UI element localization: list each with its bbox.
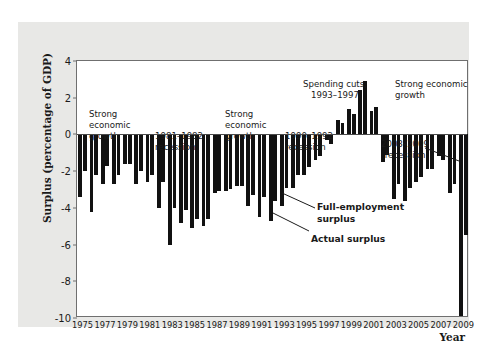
zero-baseline	[77, 134, 467, 135]
bar	[370, 111, 374, 135]
annotation-actual-surplus: Actual surplus	[311, 233, 405, 245]
bar	[352, 114, 356, 134]
x-tick-label: 1995	[296, 320, 317, 330]
annotation-strong-growth-2: Strong economic growth	[225, 109, 287, 143]
annotation-strong-growth-3: Strong economic growth	[395, 79, 487, 101]
x-tick-label: 1997	[318, 320, 339, 330]
bar	[437, 134, 441, 156]
x-tick-label: 2003	[386, 320, 407, 330]
figure: Surplus (percentage of GDP) 420-2-4-6-8-…	[0, 0, 487, 348]
bar	[224, 134, 228, 191]
x-tick-label: 1987	[206, 320, 227, 330]
y-tick-mark	[73, 318, 77, 319]
x-tick-label: 2007	[430, 320, 451, 330]
bar	[441, 134, 445, 160]
bar	[258, 134, 262, 217]
x-tick-label: 1981	[139, 320, 160, 330]
annotation-recession-2008: 2008–2009 recession	[373, 139, 437, 161]
y-tick-mark	[73, 281, 77, 282]
bar	[251, 134, 255, 195]
bar	[273, 134, 277, 200]
x-tick-label: 1983	[162, 320, 183, 330]
annotation-strong-growth-1: Strong economic growth	[89, 109, 151, 143]
x-tick-label: 1993	[274, 320, 295, 330]
x-tick-label: 2005	[408, 320, 429, 330]
x-tick-label: 1985	[184, 320, 205, 330]
y-axis-label: Surplus (percentage of GDP)	[41, 13, 53, 263]
bar	[280, 134, 284, 206]
bar	[464, 134, 468, 235]
x-tick-label: 1991	[251, 320, 272, 330]
bar	[90, 134, 94, 211]
annotation-full-employment-surplus: Full-employment surplus	[317, 201, 421, 224]
y-tick-mark	[73, 97, 77, 98]
y-tick-mark	[73, 61, 77, 62]
y-tick-mark	[73, 207, 77, 208]
x-tick-label: 2009	[453, 320, 474, 330]
bar	[448, 134, 452, 193]
x-tick-label: 1999	[341, 320, 362, 330]
plot-area: 420-2-4-6-8-10 1975197719791981198319851…	[76, 60, 468, 317]
bar	[229, 134, 233, 189]
x-tick-label: 2001	[363, 320, 384, 330]
x-axis-label: Year	[439, 331, 465, 343]
bar	[374, 107, 378, 135]
y-tick-mark	[73, 171, 77, 172]
y-tick-mark	[73, 244, 77, 245]
bar	[246, 134, 250, 206]
bar	[262, 134, 266, 196]
x-tick-label: 1977	[94, 320, 115, 330]
x-tick-label: 1989	[229, 320, 250, 330]
x-tick-label: 1975	[72, 320, 93, 330]
bar	[269, 134, 273, 220]
bar	[83, 134, 87, 171]
bar	[453, 134, 457, 184]
chart-panel: Surplus (percentage of GDP) 420-2-4-6-8-…	[18, 22, 469, 327]
bar	[459, 134, 463, 316]
annotation-spending-cuts: Spending cuts, 1993–1997	[289, 79, 381, 101]
x-tick-label: 1979	[117, 320, 138, 330]
bar	[78, 134, 82, 196]
